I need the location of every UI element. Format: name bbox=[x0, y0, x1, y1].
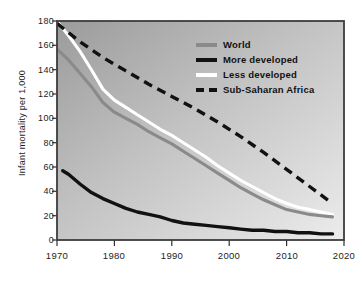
legend-label-sub-saharan-africa: Sub-Saharan Africa bbox=[223, 84, 314, 95]
legend-item-more-developed: More developed bbox=[196, 52, 346, 67]
x-tick-2020: 2020 bbox=[324, 250, 364, 261]
legend-swatch-sub-saharan-africa bbox=[196, 88, 217, 92]
x-tick-1980: 1980 bbox=[94, 250, 134, 261]
legend-label-less-developed: Less developed bbox=[223, 69, 297, 80]
legend-item-world: World bbox=[196, 37, 346, 52]
x-tick-1970: 1970 bbox=[37, 250, 77, 261]
legend-swatch-world bbox=[196, 43, 217, 47]
legend-label-more-developed: More developed bbox=[223, 54, 298, 65]
chart-figure: Infant mortality per 1,000 180 160 140 1… bbox=[0, 0, 364, 281]
x-tick-2010: 2010 bbox=[267, 250, 307, 261]
legend-item-less-developed: Less developed bbox=[196, 67, 346, 82]
x-tick-2000: 2000 bbox=[209, 250, 249, 261]
chart-legend: World More developed Less developed Sub-… bbox=[196, 37, 346, 97]
legend-label-world: World bbox=[223, 39, 251, 50]
legend-swatch-more-developed bbox=[196, 58, 217, 62]
legend-swatch-less-developed bbox=[196, 73, 217, 77]
legend-item-sub-saharan-africa: Sub-Saharan Africa bbox=[196, 82, 346, 97]
x-tick-1990: 1990 bbox=[152, 250, 192, 261]
